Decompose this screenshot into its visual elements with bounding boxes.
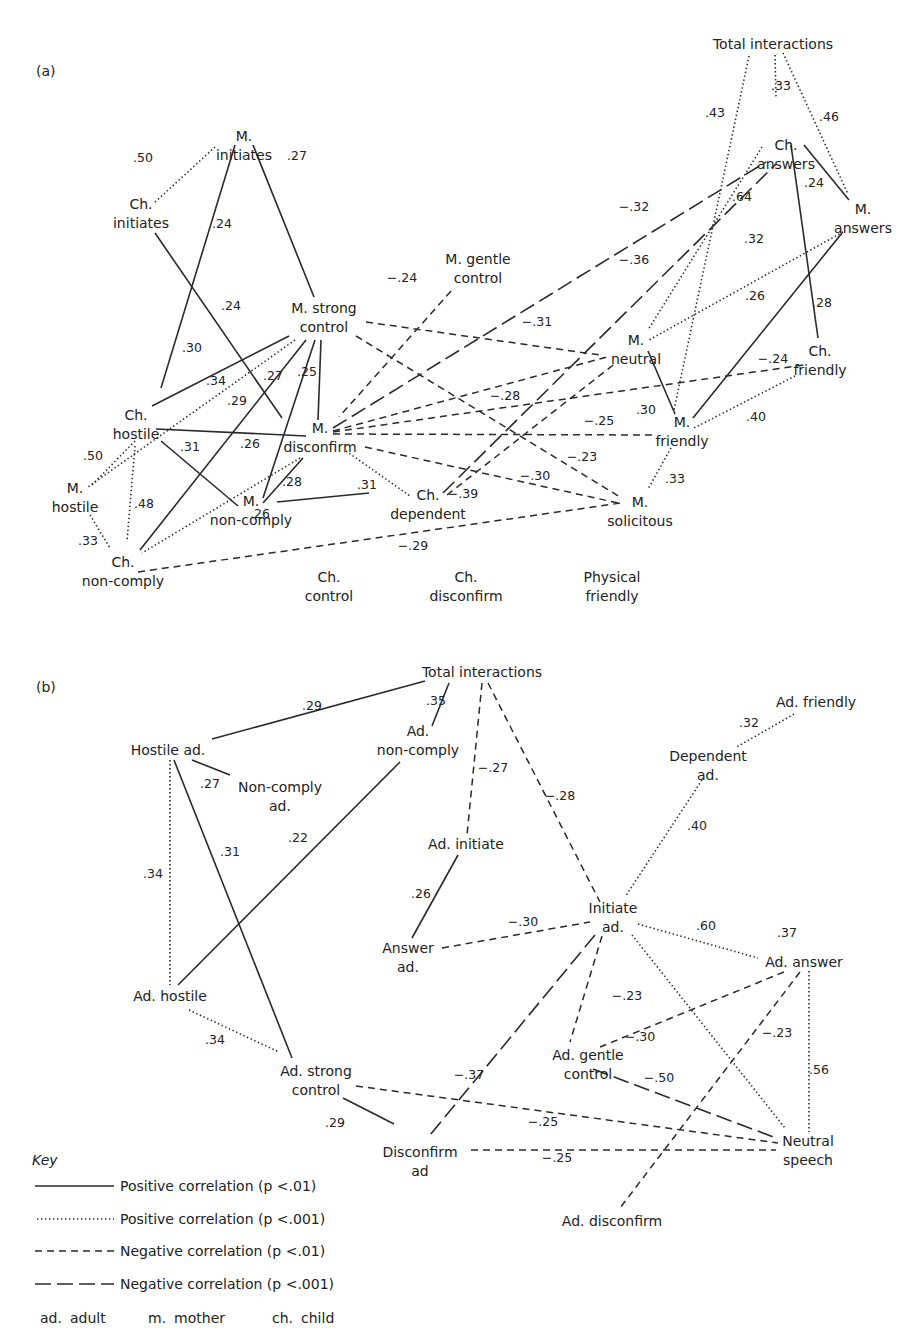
correlation-value: −.24 (387, 270, 417, 285)
correlation-value: −.24 (758, 351, 788, 366)
key-label: Negative correlation (p <.001) (120, 1276, 334, 1292)
correlation-value: −.25 (584, 413, 614, 428)
edge-b-hostile-ad-to-non-comply-ad (192, 760, 230, 775)
correlation-value: .40 (746, 409, 766, 424)
correlation-value: .56 (809, 1062, 829, 1077)
node-b-ad-non-comply: Ad.non-comply (377, 723, 459, 758)
correlation-value: −.25 (542, 1150, 572, 1165)
edge-b-ad-gentle-control-to-neutral-speech (593, 1069, 776, 1138)
key-title: Key (32, 1152, 58, 1168)
node-a-ch-initiates: Ch.initiates (113, 196, 169, 231)
key-label: Positive correlation (p <.001) (120, 1211, 325, 1227)
node-b-non-comply-ad: Non-complyad. (238, 779, 322, 814)
abbr-child: ch.child (272, 1310, 334, 1326)
node-a-ch-hostile: Ch.hostile (113, 407, 160, 442)
key-label: Negative correlation (p <.01) (120, 1243, 325, 1259)
correlation-value: −.23 (612, 988, 642, 1003)
node-a-m-initiates: M.initiates (216, 128, 272, 163)
key-item-positive-001: Positive correlation (p <.001) (37, 1211, 325, 1227)
key-item-negative-001: Negative correlation (p <.001) (35, 1276, 334, 1292)
node-b-ad-hostile: Ad. hostile (133, 988, 207, 1004)
edge-a-m-strong-control-to-m-neutral (366, 322, 600, 355)
correlation-value: .43 (705, 105, 725, 120)
correlation-value: .25 (297, 364, 317, 379)
correlation-value: −.36 (619, 252, 649, 267)
node-b-ad-answer: Ad. answer (765, 954, 843, 970)
node-a-total-interactions: Total interactions (712, 36, 833, 52)
correlation-value: .27 (200, 776, 220, 791)
correlation-diagram: .50.24.27.24.30.34.29.27.25−.31−.23−.24.… (0, 0, 913, 1344)
correlation-value: .26 (240, 436, 260, 451)
correlation-value: .48 (134, 496, 154, 511)
edge-a-m-strong-control-to-m-solicitous (356, 336, 620, 497)
edge-b-initiate-ad-to-ad-gentle-control (570, 936, 602, 1042)
node-a-m-hostile: M.hostile (52, 480, 99, 515)
correlation-value: .27 (263, 368, 283, 383)
node-b-ad-strong-control: Ad. strongcontrol (280, 1063, 352, 1098)
edge-a-m-answers-to-m-friendly (693, 233, 842, 418)
correlation-value: .24 (221, 298, 241, 313)
correlation-value: .30 (636, 402, 656, 417)
node-a-ch-disconfirm: Ch.disconfirm (429, 569, 502, 604)
node-b-hostile-ad: Hostile ad. (131, 742, 206, 758)
correlation-value: .64 (732, 189, 752, 204)
node-b-dependent-ad: Dependentad. (669, 748, 747, 783)
correlation-value: .26 (745, 288, 765, 303)
node-b-disconfirm-ad: Disconfirmad (382, 1144, 457, 1179)
edge-b-ad-strong-control-to-neutral-speech (356, 1086, 778, 1143)
correlation-value: .26 (411, 886, 431, 901)
correlation-value: −.25 (528, 1114, 558, 1129)
correlation-value: .46 (819, 109, 839, 124)
edge-a-ch-hostile-to-ch-non-comply (127, 446, 135, 541)
correlation-value: .31 (180, 439, 200, 454)
node-b-ad-disconfirm: Ad. disconfirm (562, 1213, 662, 1229)
correlation-value: .24 (804, 175, 824, 190)
correlation-value: .35 (426, 693, 446, 708)
node-b-ad-initiate: Ad. initiate (428, 836, 504, 852)
node-b-ad-gentle-control: Ad. gentlecontrol (552, 1047, 623, 1082)
edge-a-ch-friendly-to-m-friendly (694, 376, 795, 428)
correlation-value: −.28 (490, 388, 520, 403)
correlation-value: .33 (665, 471, 685, 486)
correlation-value: −.39 (448, 486, 478, 501)
edge-a-m-strong-control-to-m-disconfirm (318, 340, 321, 420)
edge-b-ad-hostile-to-ad-strong-control (189, 1010, 279, 1052)
edge-a-m-disconfirm-to-ch-answers (333, 162, 766, 428)
correlation-value: −.30 (625, 1029, 655, 1044)
correlation-value: .50 (133, 150, 153, 165)
correlation-value: .50 (83, 448, 103, 463)
edge-a-m-disconfirm-to-m-friendly (333, 434, 655, 435)
abbr-adult: ad.adult (40, 1310, 106, 1326)
correlation-value: .31 (220, 844, 240, 859)
correlation-value: −.29 (398, 538, 428, 553)
correlation-value: −.30 (508, 914, 538, 929)
node-a-m-answers: M.answers (834, 201, 892, 236)
node-a-m-gentle-control: M. gentlecontrol (445, 251, 510, 286)
edge-b-ad-non-comply-to-ad-hostile (178, 762, 400, 985)
abbr-mother: m.mother (148, 1310, 225, 1326)
correlation-value: −.32 (619, 199, 649, 214)
panel-b-label: (b) (36, 679, 56, 695)
correlation-value: .37 (777, 925, 797, 940)
key-item-negative-01: Negative correlation (p <.01) (35, 1243, 325, 1259)
node-a-ch-non-comply: Ch.non-comply (82, 554, 164, 589)
correlation-value: .24 (212, 216, 232, 231)
node-a-ch-answers: Ch.answers (757, 137, 815, 172)
correlation-value: .28 (282, 474, 302, 489)
edge-a-m-disconfirm-to-ch-friendly (333, 365, 804, 432)
correlation-value: .30 (182, 340, 202, 355)
node-b-ad-friendly: Ad. friendly (776, 694, 856, 710)
node-b-initiate-ad: Initiatead. (589, 900, 638, 935)
correlation-value: .29 (302, 698, 322, 713)
correlation-value: −.31 (522, 314, 552, 329)
edge-b-total-interactions-to-ad-initiate (467, 683, 482, 835)
correlation-value: −.37 (454, 1067, 484, 1082)
node-a-m-friendly: M.friendly (655, 414, 708, 449)
correlation-value: .29 (227, 393, 247, 408)
edge-a-m-initiates-to-ch-initiates (154, 147, 215, 203)
edge-a-ch-dependent-to-ch-answers (443, 164, 776, 493)
correlation-value: .31 (357, 477, 377, 492)
legend-key: Key Positive correlation (p <.01) Positi… (32, 1152, 334, 1326)
correlation-value: .34 (143, 866, 163, 881)
edge-a-m-answers-to-m-neutral (649, 232, 843, 340)
